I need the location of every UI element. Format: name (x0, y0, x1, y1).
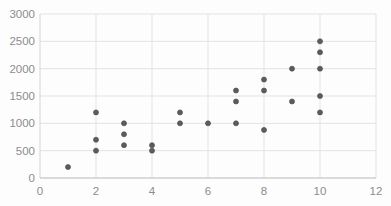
data-point (122, 143, 127, 148)
data-point (318, 66, 323, 71)
data-point (150, 148, 155, 153)
y-tick-label: 1000 (9, 117, 35, 129)
data-point (318, 50, 323, 55)
x-tick-label: 12 (370, 185, 383, 197)
chart-background (0, 0, 391, 206)
data-point (122, 121, 127, 126)
y-tick-label: 0 (29, 172, 35, 184)
data-point (318, 94, 323, 99)
data-point (262, 88, 267, 93)
y-tick-label: 2000 (9, 63, 35, 75)
x-tick-label: 10 (314, 185, 327, 197)
data-point (178, 110, 183, 115)
scatter-chart: 050010001500200025003000024681012 (0, 0, 391, 206)
scatter-plot-svg: 050010001500200025003000024681012 (0, 0, 391, 206)
x-tick-label: 6 (205, 185, 211, 197)
data-point (234, 121, 239, 126)
data-point (206, 121, 211, 126)
data-point (290, 66, 295, 71)
data-point (178, 121, 183, 126)
data-point (234, 88, 239, 93)
y-tick-label: 2500 (9, 35, 35, 47)
data-point (94, 110, 99, 115)
data-point (234, 99, 239, 104)
data-point (94, 148, 99, 153)
data-point (262, 77, 267, 82)
data-point (318, 39, 323, 44)
data-point (262, 127, 267, 132)
y-tick-label: 500 (16, 145, 35, 157)
data-point (290, 99, 295, 104)
x-tick-label: 8 (261, 185, 267, 197)
y-tick-label: 3000 (9, 8, 35, 20)
data-point (94, 137, 99, 142)
data-point (150, 143, 155, 148)
data-point (318, 110, 323, 115)
y-tick-label: 1500 (9, 90, 35, 102)
data-point (66, 165, 71, 170)
x-tick-label: 2 (93, 185, 99, 197)
data-point (122, 132, 127, 137)
x-tick-label: 0 (37, 185, 43, 197)
x-tick-label: 4 (149, 185, 156, 197)
